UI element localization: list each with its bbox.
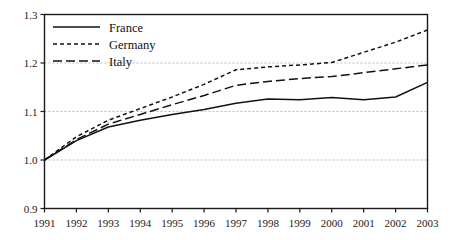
y-tick-label: 0.9	[24, 203, 38, 215]
x-tick-label: 1996	[193, 217, 216, 229]
line-chart: 0.91.01.11.21.3 199119921993199419951996…	[0, 0, 457, 240]
x-tick-label: 2000	[321, 217, 344, 229]
x-tick-label: 1995	[161, 217, 184, 229]
x-tick-label: 2001	[353, 217, 375, 229]
y-tick-label: 1.3	[24, 9, 38, 21]
x-tick-label: 1997	[225, 217, 248, 229]
legend: FranceGermanyItaly	[53, 21, 156, 69]
x-tick-label: 1991	[34, 217, 56, 229]
series-line-germany	[45, 30, 428, 160]
legend-label-germany: Germany	[109, 38, 156, 52]
y-tick-label: 1.0	[24, 154, 38, 166]
series-line-italy	[45, 65, 428, 160]
x-tick-label: 2003	[417, 217, 440, 229]
series-line-france	[45, 82, 428, 160]
x-tick-label: 1992	[65, 217, 87, 229]
x-axis-tick-labels: 1991199219931994199519961997199819992000…	[34, 217, 440, 229]
chart-canvas: 0.91.01.11.21.3 199119921993199419951996…	[0, 0, 457, 240]
x-tick-label: 1993	[97, 217, 120, 229]
y-axis-tick-labels: 0.91.01.11.21.3	[24, 9, 38, 215]
grid-lines	[45, 63, 428, 209]
x-tick-label: 2002	[385, 217, 407, 229]
x-tick-label: 1998	[257, 217, 280, 229]
data-series-group	[45, 30, 428, 160]
x-tick-label: 1994	[129, 217, 152, 229]
x-tick-label: 1999	[289, 217, 312, 229]
legend-label-italy: Italy	[109, 55, 133, 69]
y-tick-label: 1.1	[24, 106, 38, 118]
legend-label-france: France	[109, 21, 143, 35]
y-tick-label: 1.2	[24, 57, 38, 69]
